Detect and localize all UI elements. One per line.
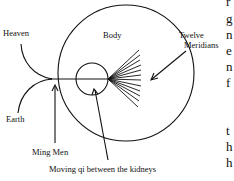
side-text-5: f <box>226 76 230 89</box>
side-text-4: n <box>226 60 233 73</box>
side-text-2: n <box>226 28 233 41</box>
label-moving-qi: Moving qi between the kidneys <box>49 165 156 174</box>
side-text-6: t <box>226 124 230 137</box>
label-body: Body <box>103 31 121 40</box>
body-circle <box>58 5 194 141</box>
ming-men-arrow <box>52 85 58 143</box>
side-text-0: r <box>226 0 230 8</box>
twelve-meridians-fan <box>108 50 141 107</box>
label-twelve: Twelve <box>179 31 204 40</box>
side-text-1: g <box>226 12 233 25</box>
heaven-curve <box>21 44 52 79</box>
side-text-3: e <box>226 44 232 57</box>
side-text-7: h <box>226 140 233 153</box>
label-meridians: Meridians <box>184 41 218 50</box>
label-heaven: Heaven <box>3 29 29 38</box>
side-text-8: h <box>226 156 233 169</box>
label-earth: Earth <box>6 115 24 124</box>
label-ming-men: Ming Men <box>32 148 68 157</box>
earth-curve <box>18 79 52 113</box>
moving-qi-arrow <box>92 89 108 160</box>
meridians-arrow <box>151 51 186 80</box>
